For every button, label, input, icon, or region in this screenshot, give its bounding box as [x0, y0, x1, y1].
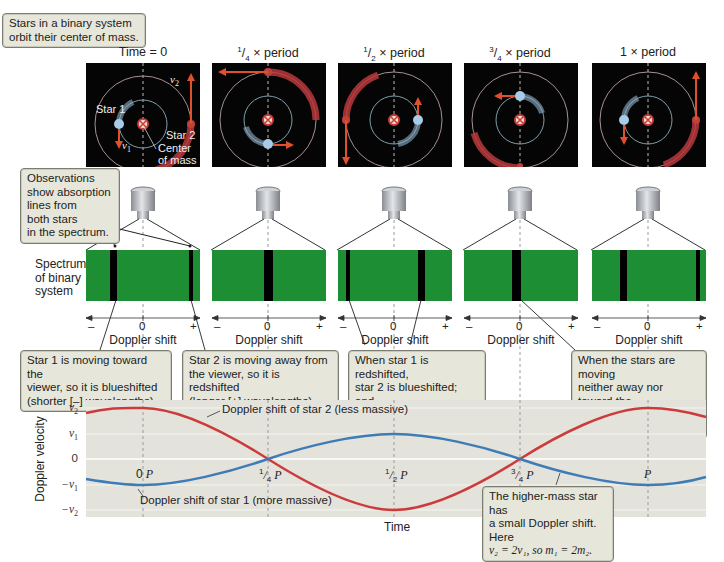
star2-curve-label: Doppler shift of star 2 (less massive): [222, 403, 408, 415]
ptick-three-quarter: 3/4 P: [511, 467, 534, 484]
doppler-shift-label: Doppler shift: [464, 333, 578, 347]
spectrum-4: [592, 250, 706, 301]
axis-minus: –: [214, 320, 220, 332]
ptick-quarter: 1/4 P: [259, 467, 282, 484]
doppler-shift-label: Doppler shift: [212, 333, 326, 347]
axis-plus: +: [568, 320, 575, 332]
axis-zero: 0: [516, 320, 522, 332]
callout-line: Observations: [27, 172, 113, 186]
ytick-v2: v2: [48, 401, 78, 416]
doppler-shift-label: Doppler shift: [338, 333, 452, 347]
spectrum-0: [86, 250, 200, 301]
axis-zero: 0: [139, 320, 145, 332]
absorption-line: [189, 250, 193, 301]
callout-higher-mass: The higher-mass star has a small Doppler…: [482, 486, 614, 562]
axis-plus: +: [190, 320, 197, 332]
callout-line: in the spectrum.: [27, 226, 113, 240]
axis-plus: +: [316, 320, 323, 332]
axis-minus: –: [340, 320, 346, 332]
star1-curve-label: Doppler shift of star 1 (more massive): [140, 494, 332, 506]
absorption-line: [418, 250, 425, 301]
axis-minus: –: [594, 320, 600, 332]
axis-plus: +: [696, 320, 703, 332]
axis-zero: 0: [390, 320, 396, 332]
ptick-half: 1/2 P: [385, 467, 408, 484]
axis-plus: +: [442, 320, 449, 332]
callout-line: show absorption: [27, 186, 113, 200]
ptick-full: P: [644, 467, 651, 482]
ytick-v1: v1: [48, 427, 78, 442]
absorption-line: [512, 250, 521, 301]
ytick-neg-v2: −v2: [48, 503, 78, 518]
absorption-line: [696, 250, 700, 301]
y-axis-label: Doppler velocity: [33, 409, 47, 509]
doppler-shift-label: Doppler shift: [86, 333, 200, 347]
telescope-icon: [86, 187, 705, 250]
ytick-neg-v1: −v1: [48, 478, 78, 493]
callout-line: both stars: [27, 213, 113, 227]
axis-zero: 0: [264, 320, 270, 332]
spectrum-label: Spectrum of binary system: [35, 258, 86, 299]
ytick-zero: 0: [48, 452, 78, 464]
ptick-0: 0 P: [136, 467, 153, 482]
axis-minus: –: [88, 320, 94, 332]
doppler-shift-label: Doppler shift: [592, 333, 706, 347]
absorption-line: [346, 250, 350, 301]
observations-callout: Observations show absorption lines from …: [20, 168, 120, 244]
spectrum-1: [212, 250, 326, 301]
absorption-line: [620, 250, 627, 301]
spectrum-3: [464, 250, 578, 301]
x-axis-label: Time: [384, 520, 410, 534]
absorption-line: [110, 250, 117, 301]
callout-line: lines from: [27, 199, 113, 213]
spectrum-2: [338, 250, 452, 301]
absorption-line: [264, 250, 273, 301]
axis-zero: 0: [644, 320, 650, 332]
axis-minus: –: [466, 320, 472, 332]
